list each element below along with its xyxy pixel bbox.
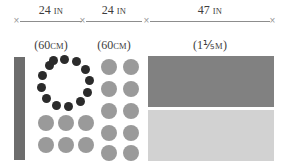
diagram-canvas: × × × × 24 IN (60CM) 24 IN (60CM) 47 IN <box>0 0 286 166</box>
ring-dot <box>52 101 61 110</box>
ring-dot <box>72 57 81 66</box>
grid-dot <box>101 59 117 75</box>
grid-dot <box>58 115 74 131</box>
grid-dot <box>101 145 117 161</box>
grid-dot <box>78 115 94 131</box>
vertical-dark-bar <box>14 57 25 160</box>
lower-rectangle <box>148 110 274 161</box>
grid-dot <box>123 81 139 97</box>
imperial-measure-1: 24 IN <box>20 4 82 18</box>
ring-dot <box>49 56 58 65</box>
grid-dot <box>58 137 74 153</box>
ring-dot <box>83 88 92 97</box>
ring-dot <box>85 76 94 85</box>
ring-dot <box>60 55 69 64</box>
pattern-illustration <box>0 46 286 166</box>
ring-dot <box>81 65 90 74</box>
grid-dot <box>101 81 117 97</box>
grid-dot <box>101 103 117 119</box>
ring-dot <box>64 102 73 111</box>
grid-dot <box>123 125 139 141</box>
upper-rectangle <box>148 56 274 107</box>
imperial-measure-2: 24 IN <box>86 4 142 18</box>
ring-dot <box>37 83 46 92</box>
ring-dot <box>42 94 51 103</box>
grid-dot <box>123 145 139 161</box>
grid-dot <box>38 115 54 131</box>
grid-dot <box>101 125 117 141</box>
imperial-measure-3: 47 IN <box>150 4 270 18</box>
grid-dot <box>123 103 139 119</box>
ring-dot <box>38 71 47 80</box>
grid-dot <box>123 59 139 75</box>
ring-dot <box>76 97 85 106</box>
dimension-ruler: × × × × 24 IN (60CM) 24 IN (60CM) 47 IN <box>0 0 286 46</box>
grid-dot <box>38 137 54 153</box>
grid-dot <box>78 137 94 153</box>
